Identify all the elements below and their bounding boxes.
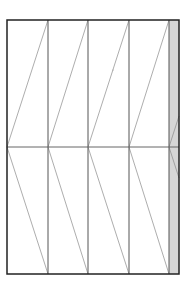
diagonal-lower-4 — [129, 147, 169, 274]
diagonal-upper-2 — [48, 20, 88, 147]
diagonal-lower-1 — [7, 147, 48, 274]
diagonal-upper-4 — [129, 20, 169, 147]
panel-pattern-diagram — [0, 0, 191, 289]
diagonal-lower-3 — [88, 147, 129, 274]
speck-mark — [112, 69, 113, 70]
diagonal-upper-3 — [88, 20, 129, 147]
diagonal-upper-1 — [7, 20, 48, 147]
diagonal-lower-2 — [48, 147, 88, 274]
speck — [112, 69, 113, 70]
